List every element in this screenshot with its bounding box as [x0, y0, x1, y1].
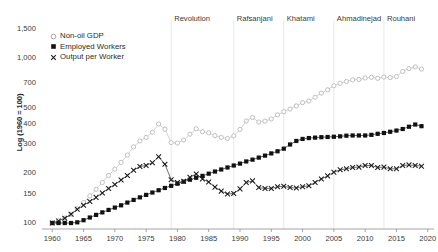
- y-tick-label: 200: [6, 168, 36, 177]
- y-tick-label: 100: [6, 218, 36, 227]
- x-tick-label: 1995: [256, 234, 286, 243]
- y-tick-label: 700: [6, 78, 36, 87]
- period-label: Khatami: [287, 14, 315, 23]
- y-tick-label: 1,500: [6, 24, 36, 33]
- period-label: Rafsanjani: [237, 14, 273, 23]
- x-tick-label: 1960: [37, 234, 67, 243]
- x-tick-label: 1980: [162, 234, 192, 243]
- period-label: Ahmadinejad: [337, 14, 381, 23]
- x-tick-label: 2015: [381, 234, 411, 243]
- chart-container: Log (1960 = 100) Non-oil GDP Employed Wo…: [0, 0, 438, 252]
- period-label: Revolution: [174, 14, 210, 23]
- x-tick-label: 2005: [319, 234, 349, 243]
- x-tick-label: 1975: [131, 234, 161, 243]
- x-tick-label: 2020: [413, 234, 438, 243]
- y-tick-label: 500: [6, 103, 36, 112]
- period-label: Rouhani: [387, 14, 415, 23]
- y-tick-label: 400: [6, 119, 36, 128]
- x-tick-label: 1970: [100, 234, 130, 243]
- x-tick-label: 1990: [225, 234, 255, 243]
- plot-area: [0, 0, 438, 252]
- x-tick-label: 1985: [194, 234, 224, 243]
- data-series-layer: [50, 65, 424, 226]
- y-tick-label: 1,000: [6, 53, 36, 62]
- x-tick-label: 2000: [288, 234, 318, 243]
- x-tick-label: 2010: [350, 234, 380, 243]
- x-tick-label: 1965: [69, 234, 99, 243]
- y-tick-label: 300: [6, 139, 36, 148]
- period-divider-lines: [171, 20, 384, 229]
- y-tick-label: 150: [6, 189, 36, 198]
